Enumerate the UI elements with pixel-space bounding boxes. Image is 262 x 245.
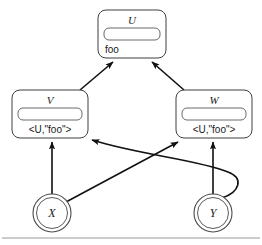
diagram-canvas: U foo V <U,"foo"> W <U,"foo"> X: [0, 0, 262, 245]
edge-w-to-u: [152, 62, 184, 90]
node-v-field-value: <U,"foo">: [29, 124, 72, 135]
edge-x-to-w: [66, 142, 178, 202]
node-u-slot[interactable]: [104, 28, 160, 40]
node-u-field-value: foo: [105, 44, 119, 55]
node-w-slot[interactable]: [182, 108, 246, 120]
node-v[interactable]: V <U,"foo">: [12, 90, 88, 138]
node-x[interactable]: X: [33, 194, 71, 232]
object-reference-diagram: U foo V <U,"foo"> W <U,"foo"> X: [0, 0, 262, 245]
node-v-slot[interactable]: [18, 108, 82, 120]
node-y[interactable]: Y: [194, 194, 232, 232]
node-w[interactable]: W <U,"foo">: [176, 90, 252, 138]
node-x-label: X: [47, 206, 56, 220]
node-u[interactable]: U foo: [98, 10, 166, 58]
node-w-title: W: [209, 94, 219, 106]
node-w-field-value: <U,"foo">: [193, 124, 236, 135]
node-u-title: U: [128, 14, 137, 26]
edge-v-to-u: [80, 62, 113, 90]
